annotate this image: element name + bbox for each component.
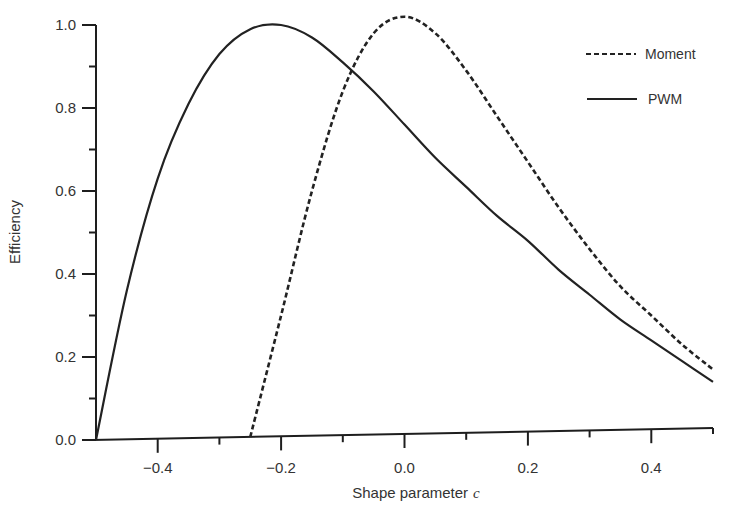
x-tick-label: 0.0 bbox=[394, 459, 415, 476]
y-tick-label: 0.8 bbox=[55, 99, 76, 116]
series-layer bbox=[96, 17, 713, 440]
x-axis-ticks: −0.4−0.20.00.20.4 bbox=[143, 429, 662, 476]
legend-item-moment: Moment bbox=[586, 46, 696, 62]
legend: Moment PWM bbox=[586, 46, 696, 107]
y-tick-label: 0.4 bbox=[55, 265, 76, 282]
x-tick-label: −0.4 bbox=[143, 459, 173, 476]
y-tick-label: 0.6 bbox=[55, 182, 76, 199]
series-line-pwm bbox=[96, 24, 713, 440]
x-axis-line bbox=[92, 428, 713, 440]
y-tick-label: 0.2 bbox=[55, 348, 76, 365]
legend-label-pwm: PWM bbox=[648, 91, 682, 107]
x-axis-label-text: Shape parameter bbox=[352, 484, 468, 501]
x-axis-label: Shape parameterc bbox=[352, 484, 480, 501]
axes bbox=[92, 25, 713, 440]
y-tick-label: 0.0 bbox=[55, 431, 76, 448]
y-tick-label: 1.0 bbox=[55, 16, 76, 33]
legend-label-moment: Moment bbox=[645, 46, 696, 62]
x-axis-variable: c bbox=[473, 485, 480, 501]
efficiency-chart: −0.4−0.20.00.20.4 0.00.20.40.60.81.0 Eff… bbox=[0, 0, 742, 523]
series-line-moment bbox=[250, 17, 713, 437]
x-tick-label: −0.2 bbox=[266, 459, 296, 476]
x-tick-label: 0.2 bbox=[517, 459, 538, 476]
y-axis-ticks: 0.00.20.40.60.81.0 bbox=[55, 16, 96, 448]
legend-item-pwm: PWM bbox=[587, 91, 682, 107]
y-axis-label: Efficiency bbox=[6, 200, 23, 264]
x-tick-label: 0.4 bbox=[641, 459, 662, 476]
